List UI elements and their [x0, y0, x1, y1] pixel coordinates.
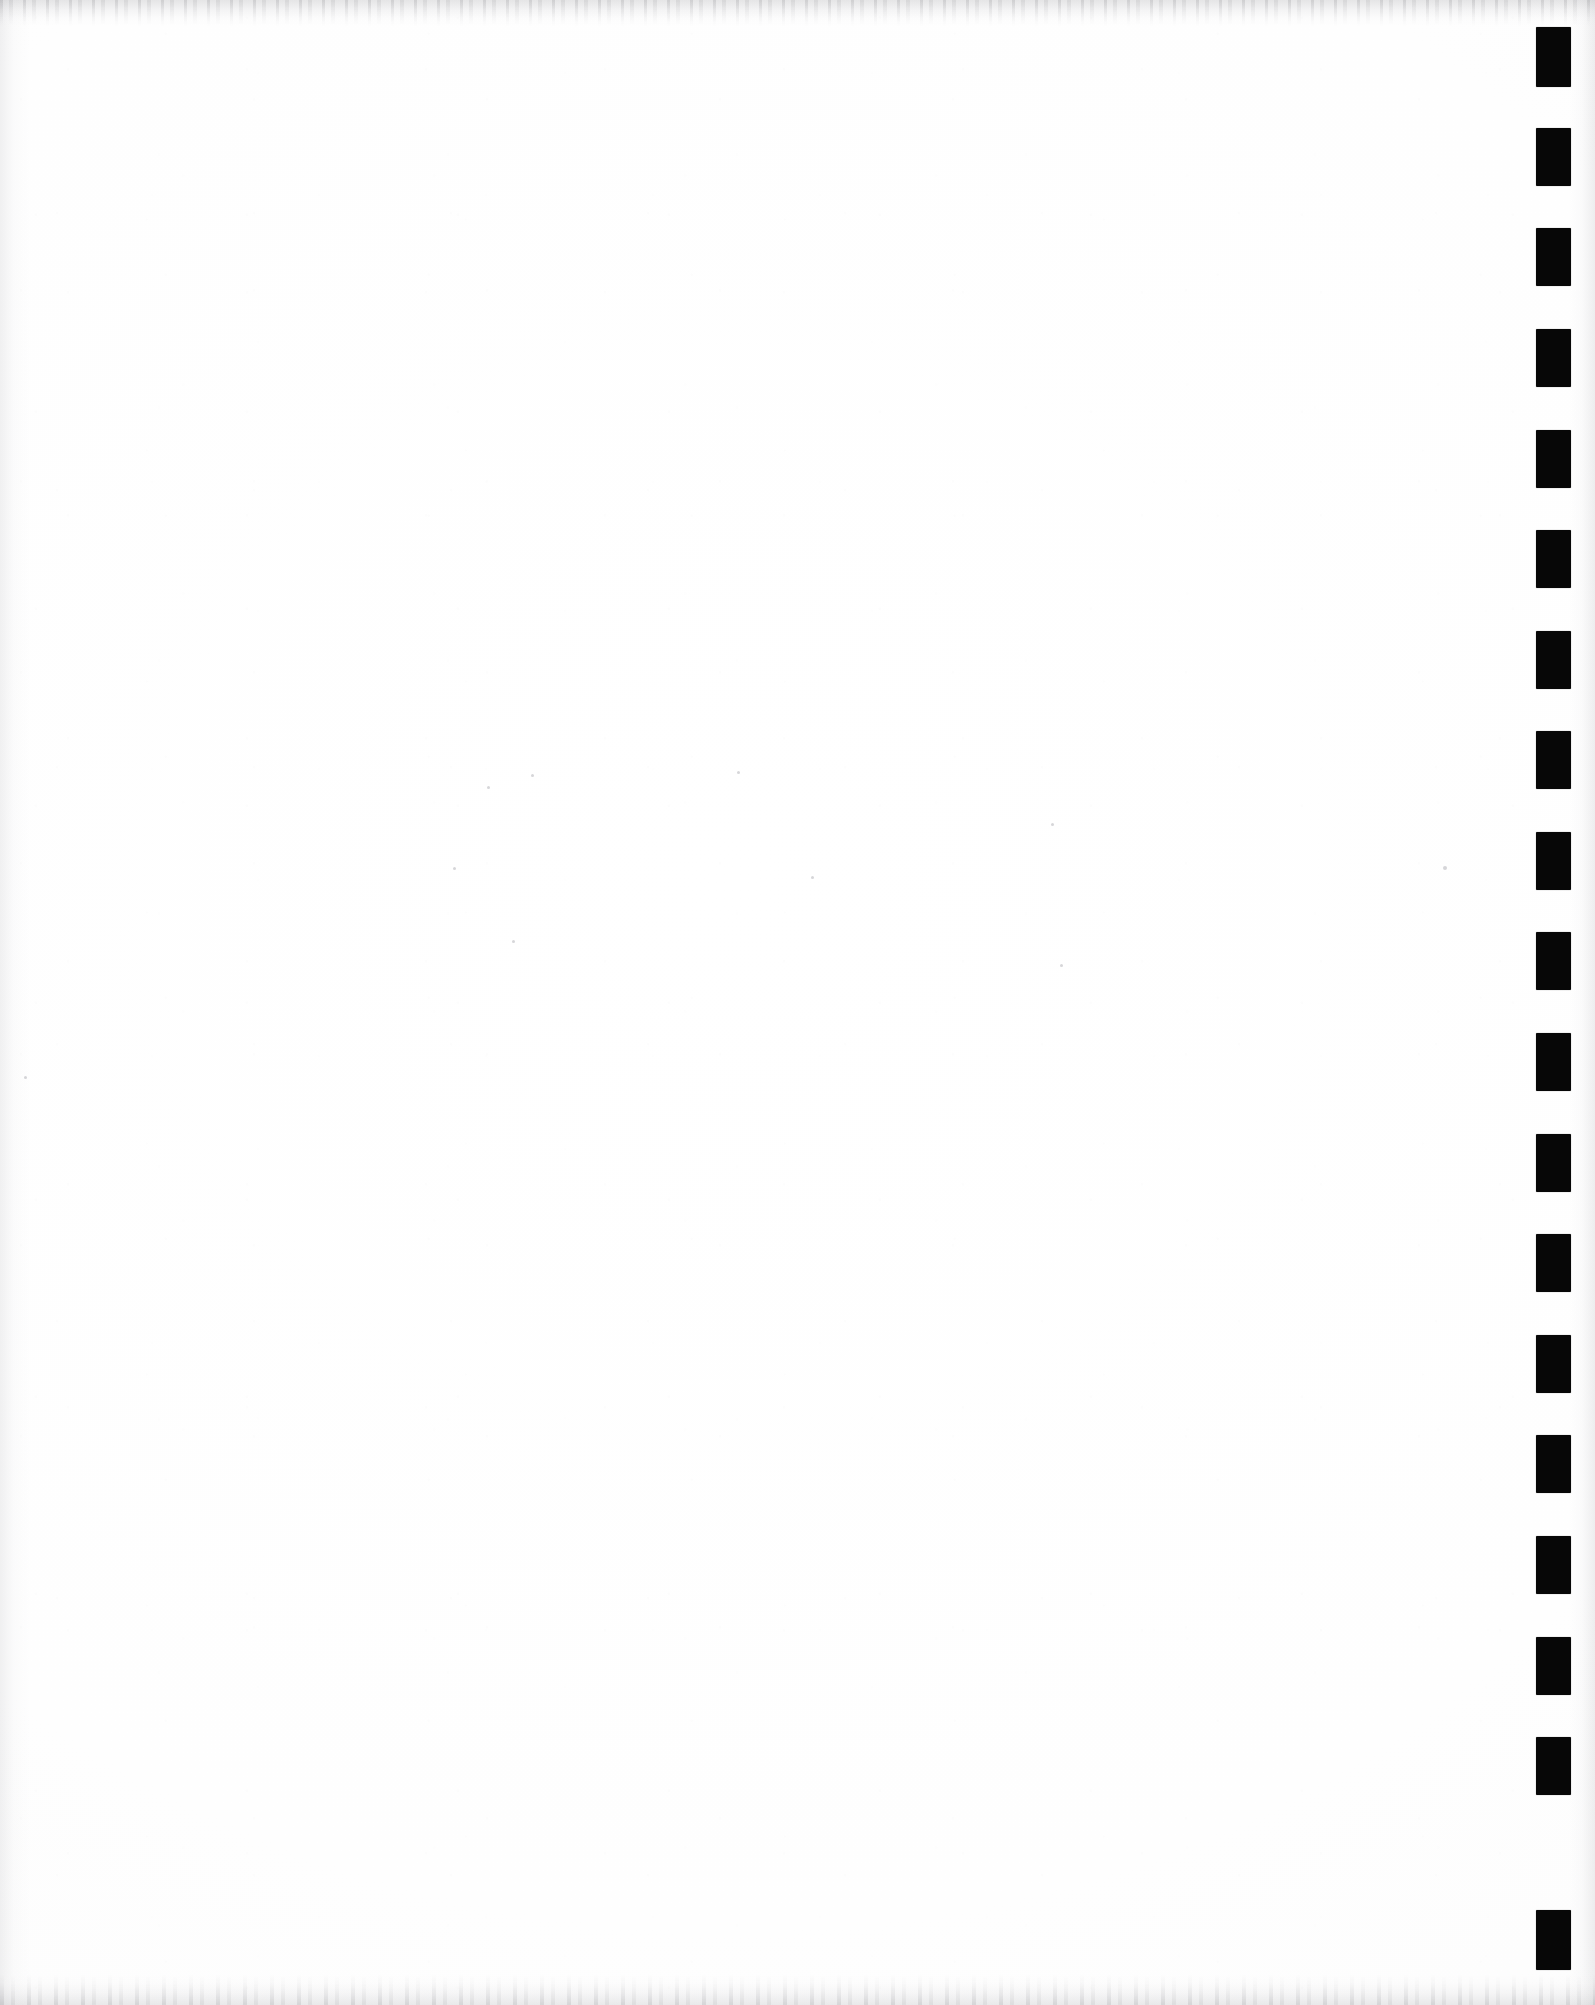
index-mark	[1536, 228, 1571, 286]
index-mark	[1536, 1910, 1571, 1970]
index-mark	[1536, 530, 1571, 588]
index-mark	[1536, 932, 1571, 990]
scanned-document-page	[0, 0, 1595, 2005]
paper-background	[0, 0, 1595, 2005]
index-mark	[1536, 1536, 1571, 1594]
index-mark	[1536, 1637, 1571, 1695]
index-mark	[1536, 1335, 1571, 1393]
index-mark	[1536, 731, 1571, 789]
index-mark	[1536, 128, 1571, 186]
index-mark	[1536, 832, 1571, 890]
right-edge-index-mark-strip	[1520, 0, 1595, 2005]
index-mark	[1536, 27, 1571, 87]
index-mark	[1536, 1134, 1571, 1192]
index-mark	[1536, 631, 1571, 689]
index-mark	[1536, 430, 1571, 488]
index-mark	[1536, 1737, 1571, 1795]
index-mark	[1536, 1435, 1571, 1493]
index-mark	[1536, 329, 1571, 387]
index-mark	[1536, 1234, 1571, 1292]
index-mark	[1536, 1033, 1571, 1091]
